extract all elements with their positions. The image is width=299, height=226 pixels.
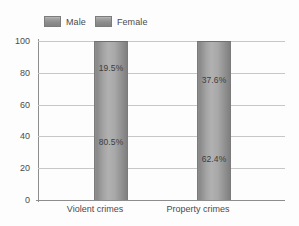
stacked-bar-chart: Male Female 100 80 60 40 20 0 19.5% 80.5… [0, 0, 299, 226]
bar-label-female-property: 37.6% [189, 75, 239, 85]
plot-area: 19.5% 80.5% 37.6% 62.4% [38, 41, 285, 200]
y-axis-tick-labels: 100 80 60 40 20 0 [0, 41, 34, 200]
y-tick-0: 0 [0, 195, 30, 205]
legend-swatch-male-icon [44, 16, 61, 27]
x-tick-violent-crimes: Violent crimes [40, 204, 150, 214]
y-tick-40: 40 [0, 131, 30, 141]
bar-segment-male-violent[interactable] [94, 72, 128, 200]
x-tick-property-crimes: Property crimes [143, 204, 253, 214]
gridline-60 [38, 105, 285, 106]
gridline-80 [38, 73, 285, 74]
bar-label-male-property: 62.4% [189, 154, 239, 164]
gridline-40 [38, 136, 285, 137]
bar-label-male-violent: 80.5% [86, 137, 136, 147]
bar-label-female-violent: 19.5% [86, 63, 136, 73]
x-axis-line [36, 200, 285, 201]
y-tick-80: 80 [0, 68, 30, 78]
bar-group-property-crimes[interactable]: 37.6% 62.4% [197, 41, 231, 200]
y-tick-100: 100 [0, 36, 30, 46]
legend-label-male: Male [66, 17, 86, 27]
gridline-20 [38, 168, 285, 169]
legend-item-female[interactable]: Female [95, 16, 148, 27]
legend-swatch-female-icon [95, 16, 112, 27]
chart-legend: Male Female [44, 13, 148, 30]
bar-segment-male-property[interactable] [197, 101, 231, 200]
legend-item-male[interactable]: Male [44, 16, 86, 27]
bar-segment-female-property[interactable] [197, 41, 231, 101]
y-tick-20: 20 [0, 163, 30, 173]
y-tick-60: 60 [0, 100, 30, 110]
bar-group-violent-crimes[interactable]: 19.5% 80.5% [94, 41, 128, 200]
legend-label-female: Female [117, 17, 148, 27]
gridline-100 [38, 41, 285, 42]
